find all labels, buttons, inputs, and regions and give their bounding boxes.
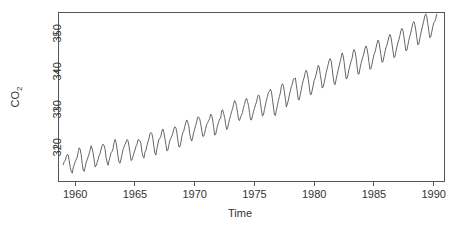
x-axis-title: Time <box>228 207 252 219</box>
x-tick-label: 1965 <box>123 188 147 200</box>
x-tick-label: 1990 <box>422 188 446 200</box>
x-tick-label: 1970 <box>182 188 206 200</box>
chart-container: 1960196519701975198019851990 32033034035… <box>0 0 461 230</box>
y-tick-label: 350 <box>51 24 63 42</box>
x-tick-label: 1975 <box>242 188 266 200</box>
co2-line-chart: 1960196519701975198019851990 32033034035… <box>0 0 461 230</box>
x-tick-label: 1980 <box>302 188 326 200</box>
x-tick-label: 1985 <box>362 188 386 200</box>
x-tick-label: 1960 <box>63 188 87 200</box>
y-axis-title-subscript: 2 <box>15 86 24 91</box>
y-tick-label: 340 <box>51 62 63 80</box>
y-tick-label: 330 <box>51 100 63 118</box>
y-tick-label: 320 <box>51 138 63 156</box>
y-axis-title-main: CO <box>9 91 21 108</box>
